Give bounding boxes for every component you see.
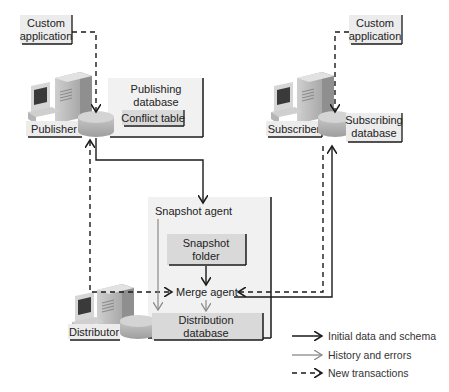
legend-item-history-errors: History and errors <box>292 349 411 361</box>
merge-agent-label: Merge agent <box>176 286 238 298</box>
legend-item-new-transactions: New transactions <box>292 367 409 379</box>
publisher-label: Publisher <box>31 123 77 135</box>
custom-application-right-label-2: application <box>349 30 402 42</box>
publishing-database-label-2: database <box>133 96 178 108</box>
legend-label-initial-data: Initial data and schema <box>328 330 436 342</box>
distributor-label: Distributor <box>69 326 119 338</box>
custom-app-right-to-subscriber-arrow <box>335 32 349 112</box>
distribution-database-label-1: Distribution <box>178 314 233 326</box>
publisher-to-snapshot-agent-arrow <box>96 138 203 203</box>
publishing-database-panel: Publishing database <box>108 78 203 137</box>
custom-application-right-label-1: Custom <box>356 17 394 29</box>
custom-application-left-box: Custom application <box>20 15 73 44</box>
subscribing-database-label-2: database <box>351 127 396 139</box>
snapshot-folder-label-2: folder <box>192 250 220 262</box>
custom-application-left-label-2: application <box>20 30 73 42</box>
subscribing-database-label-1: Subscribing <box>345 114 402 126</box>
distribution-database-box: Distribution database <box>152 313 263 340</box>
custom-application-right-box: Custom application <box>349 15 402 44</box>
conflict-table-label: Conflict table <box>121 112 185 124</box>
subscriber-label: Subscriber <box>268 123 321 135</box>
distribution-database-cylinder-icon <box>120 315 156 339</box>
legend-item-initial-data: Initial data and schema <box>292 330 436 342</box>
legend-label-history-errors: History and errors <box>328 349 411 361</box>
publishing-database-cylinder-icon <box>78 111 114 137</box>
legend-label-new-transactions: New transactions <box>328 367 409 379</box>
distributor-label-box: Distributor <box>68 324 120 340</box>
snapshot-agent-label: Snapshot agent <box>155 205 232 217</box>
conflict-table-box: Conflict table <box>121 110 185 126</box>
custom-application-left-label-1: Custom <box>27 17 65 29</box>
publishing-database-label-1: Publishing <box>131 83 182 95</box>
replication-diagram: Publishing database Conflict table Publi… <box>0 0 449 392</box>
subscriber-label-box: Subscriber <box>266 121 322 137</box>
distribution-database-label-2: database <box>183 327 228 339</box>
legend: Initial data and schema History and erro… <box>292 330 436 379</box>
subscribing-database-label-box: Subscribing database <box>345 113 402 142</box>
snapshot-folder-box: Snapshot folder <box>167 234 246 265</box>
publisher-label-box: Publisher <box>26 121 82 137</box>
snapshot-folder-label-1: Snapshot <box>183 237 229 249</box>
